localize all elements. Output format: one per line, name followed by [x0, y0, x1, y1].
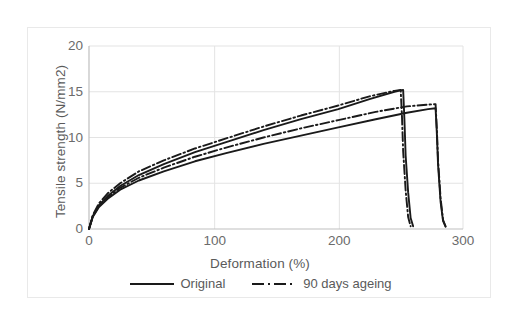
x-axis-title: Deformation (%) [28, 256, 492, 271]
chart-figure: Tensile strength (N/mm2) Deformation (%)… [0, 0, 520, 313]
chart-legend: Original 90 days ageing [28, 276, 492, 291]
series-line-3 [89, 90, 411, 229]
y-tick-label-15: 15 [53, 84, 83, 99]
data-series-group [89, 90, 446, 229]
series-line-4 [89, 104, 446, 229]
legend-item-original[interactable]: Original [129, 276, 226, 291]
series-line-1 [89, 90, 413, 229]
x-tick-label-0: 0 [69, 233, 109, 248]
legend-item-90-days-ageing[interactable]: 90 days ageing [251, 276, 391, 291]
x-tick-label-100: 100 [195, 233, 235, 248]
legend-swatch-solid-icon [129, 279, 175, 289]
legend-label-original: Original [181, 276, 226, 291]
y-tick-label-20: 20 [53, 38, 83, 53]
x-tick-label-200: 200 [319, 233, 359, 248]
x-tick-label-300: 300 [443, 233, 483, 248]
y-tick-label-10: 10 [53, 130, 83, 145]
legend-swatch-dashdot-icon [251, 279, 297, 289]
chart-frame: Tensile strength (N/mm2) Deformation (%)… [27, 27, 491, 298]
legend-label-90-days-ageing: 90 days ageing [303, 276, 391, 291]
y-tick-label-5: 5 [53, 175, 83, 190]
